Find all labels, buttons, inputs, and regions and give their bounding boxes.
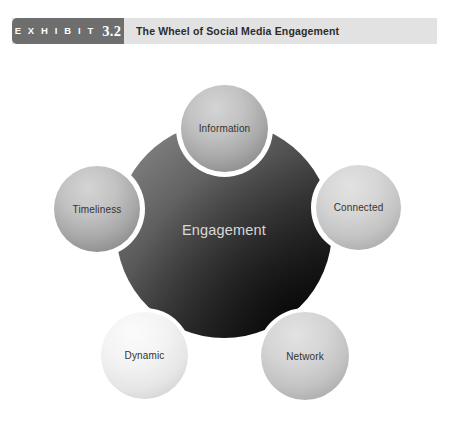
exhibit-number: 3.2 (102, 24, 121, 39)
hub-label: Engagement (116, 222, 332, 238)
node-label: Network (286, 351, 324, 362)
exhibit-header: E X H I B I T 3.2 The Wheel of Social Me… (12, 18, 437, 44)
node-label: Timeliness (73, 204, 122, 215)
node-dynamic: Dynamic (97, 308, 192, 403)
exhibit-badge: E X H I B I T 3.2 (12, 18, 124, 44)
node-sphere: Connected (316, 165, 401, 250)
node-sphere: Information (181, 85, 268, 172)
node-connected: Connected (311, 160, 406, 255)
exhibit-title: The Wheel of Social Media Engagement (124, 18, 437, 44)
node-sphere: Dynamic (101, 312, 188, 399)
node-timeliness: Timeliness (49, 161, 145, 257)
exhibit-badge-label: E X H I B I T (15, 26, 96, 36)
node-sphere: Timeliness (54, 166, 140, 252)
node-sphere: Network (261, 312, 349, 400)
wheel-diagram: Engagement Information Connected Timelin… (0, 44, 451, 437)
node-label: Dynamic (125, 350, 165, 361)
node-label: Connected (334, 202, 384, 213)
node-information: Information (176, 80, 273, 177)
node-network: Network (257, 308, 353, 404)
node-label: Information (199, 123, 251, 134)
